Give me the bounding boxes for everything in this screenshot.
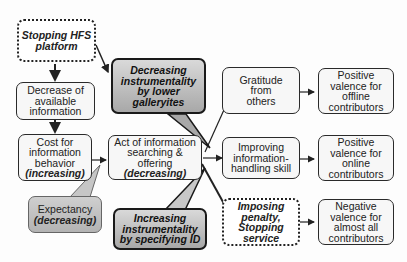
callout-expectancy: Expectancy(decreasing)	[28, 196, 102, 233]
node-positive-valence-offline: Positivevalence forofflinecontributors	[318, 68, 394, 114]
node-cost-information-behavior: Cost forinformationbehavior(increasing)	[18, 134, 92, 181]
node-negative-valence: Negativevalence foralmost allcontributor…	[318, 199, 394, 245]
node-decrease-available-information: Decrease ofavailableinformation	[16, 82, 95, 120]
callout-decreasing-instrumentality: Decreasinginstrumentalityby lowergallery…	[111, 58, 206, 114]
node-stopping-hfs-platform: Stopping HFSplatform	[17, 19, 96, 62]
callout-increasing-instrumentality: Increasinginstrumentalityby specifying I…	[113, 208, 207, 250]
node-gratitude-from-others: Gratitudefromothers	[222, 67, 300, 114]
node-act-information-searching: Act of informationsearching &offering(de…	[108, 135, 202, 180]
node-improving-information-handling-skill: Improvinginformation-handling skill	[222, 137, 300, 179]
node-positive-valence-online: Positivevalence foronlinecontributors	[318, 135, 394, 181]
node-imposing-penalty-stopping-service: Imposingpenalty,Stoppingservice	[222, 198, 300, 246]
